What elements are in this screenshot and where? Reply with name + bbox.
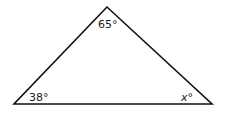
angle-label-bottom-right: x°	[181, 92, 193, 103]
degree-symbol: °	[188, 91, 194, 104]
angle-label-bottom-left: 38°	[29, 92, 49, 103]
triangle-diagram: 65° 38° x°	[0, 0, 225, 117]
angle-label-top: 65°	[98, 19, 118, 30]
